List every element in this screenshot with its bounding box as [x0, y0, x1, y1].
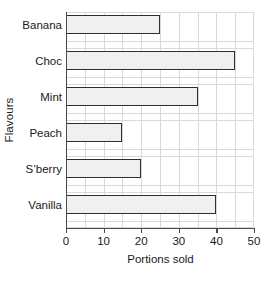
plot-area [66, 12, 254, 228]
y-axis-tick-label: Choc [12, 55, 62, 67]
y-axis-tick-label: S’berry [12, 163, 62, 175]
x-axis-tick-label: 20 [135, 235, 148, 248]
x-axis-title: Portions sold [66, 253, 255, 265]
y-axis-tick-label: Mint [12, 91, 62, 103]
x-axis-tick-mark [254, 229, 255, 233]
bar [66, 159, 141, 178]
x-axis-tick-label: 30 [172, 235, 185, 248]
x-axis-tick-mark [141, 229, 142, 233]
x-axis-tick-label: 50 [248, 235, 261, 248]
x-axis-tick-label: 40 [210, 235, 223, 248]
y-axis-tick-labels: BananaChocMintPeachS’berryVanilla [14, 12, 64, 228]
bar [66, 123, 122, 142]
bar [66, 87, 198, 106]
x-axis-tick-label: 0 [63, 235, 69, 248]
x-axis-ticks: 01020304050 [66, 229, 255, 255]
bar-chart: Flavours BananaChocMintPeachS’berryVanil… [0, 0, 276, 283]
bar [66, 195, 216, 214]
y-axis-line [66, 12, 67, 229]
x-axis-tick-mark [216, 229, 217, 233]
bar [66, 15, 160, 34]
x-axis-tick-mark [104, 229, 105, 233]
y-axis-tick-label: Peach [12, 127, 62, 139]
y-axis-tick-label: Banana [12, 19, 62, 31]
y-axis-tick-label: Vanilla [12, 199, 62, 211]
x-axis-tick-mark [179, 229, 180, 233]
x-axis-tick-label: 10 [97, 235, 110, 248]
bar [66, 51, 235, 70]
x-axis-tick-mark [66, 229, 67, 233]
bar-series [66, 12, 254, 228]
